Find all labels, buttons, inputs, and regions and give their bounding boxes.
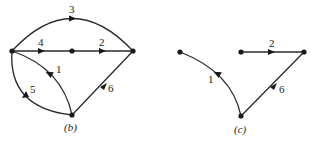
edge-b-5: 5 <box>12 51 72 115</box>
edge-label: 1 <box>56 63 62 75</box>
figure-c: 2 1 6 (c) <box>177 37 306 136</box>
edge-b-4: 4 <box>12 36 72 54</box>
node-c-bottom <box>238 113 243 118</box>
node-c-right <box>301 49 306 54</box>
arrow-icon <box>270 83 277 90</box>
arrow-icon <box>38 48 45 54</box>
edge-label: 6 <box>279 83 285 95</box>
edge-label: 4 <box>38 36 44 48</box>
figure-caption: (c) <box>234 123 247 136</box>
node-c-middle <box>238 49 243 54</box>
arrow-icon <box>69 16 76 22</box>
edge-label: 2 <box>269 37 275 49</box>
edge-label: 1 <box>208 73 214 85</box>
figure-b: 3 4 2 1 5 6 <box>9 3 135 134</box>
node-b-bottom <box>69 112 74 117</box>
arrow-icon <box>22 91 29 98</box>
figure-caption: (b) <box>64 121 77 134</box>
edge-label: 6 <box>108 82 114 94</box>
edge-b-2: 2 <box>72 36 133 54</box>
edge-c-2: 2 <box>241 37 304 55</box>
node-b-left <box>9 48 14 53</box>
arrow-icon <box>268 49 275 55</box>
edge-b-6: 6 <box>72 51 133 115</box>
edge-b-3: 3 <box>12 3 133 51</box>
edge-label: 3 <box>69 3 75 15</box>
edge-label: 2 <box>99 36 105 48</box>
edge-label: 5 <box>30 83 36 95</box>
edge-c-1: 1 <box>180 52 241 116</box>
graph-diagram: 3 4 2 1 5 6 <box>0 0 316 142</box>
arrow-icon <box>99 48 106 54</box>
node-b-right <box>130 48 135 53</box>
node-b-middle <box>69 48 74 53</box>
edge-c-6: 6 <box>241 52 304 116</box>
edge-b-1: 1 <box>12 51 72 115</box>
node-c-left <box>177 49 182 54</box>
